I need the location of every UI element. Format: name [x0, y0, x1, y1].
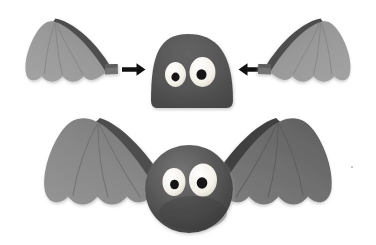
bat-assembly-illustration: Bat craft assembly diagram Separate bat …	[0, 0, 376, 245]
bottom-eye-left	[163, 168, 186, 196]
top-eye-right	[190, 57, 216, 87]
image-artifact-speck	[351, 166, 353, 168]
bottom-eye-right-pupil	[197, 177, 208, 189]
bottom-eye-left-pupil	[170, 180, 179, 190]
top-eye-left-pupil	[171, 73, 179, 82]
bottom-eye-right	[189, 164, 217, 197]
top-eye-right-pupil	[197, 69, 207, 80]
bottom-body	[145, 145, 233, 233]
top-eye-left	[165, 62, 186, 87]
illustration-canvas	[0, 0, 376, 245]
bottom-body-shading	[159, 196, 227, 230]
top-left-wing-attach-tab-shade	[105, 64, 117, 68]
top-right-wing-attach-tab-shade	[258, 64, 270, 68]
